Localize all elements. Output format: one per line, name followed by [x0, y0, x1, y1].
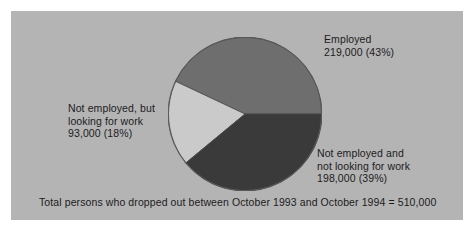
pie-chart-svg [168, 37, 322, 191]
slice-label-not-looking-for-work: Not employed and not looking for work 19… [317, 147, 410, 185]
chart-caption: Total persons who dropped out between Oc… [39, 196, 459, 209]
chart-panel: Employed 219,000 (43%) Not employed, but… [11, 11, 463, 220]
slice-label-employed: Employed 219,000 (43%) [324, 33, 394, 58]
pie-chart [168, 37, 322, 191]
slice-label-looking-for-work: Not employed, but looking for work 93,00… [68, 102, 155, 140]
figure-canvas: Employed 219,000 (43%) Not employed, but… [0, 0, 474, 231]
